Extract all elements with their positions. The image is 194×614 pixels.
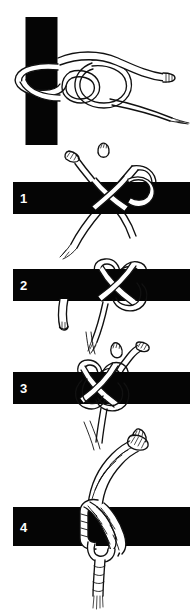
step-two-illustration xyxy=(13,259,190,358)
step-number-1: 1 xyxy=(20,191,27,206)
step-one-illustration xyxy=(13,151,190,259)
step-four-working-end xyxy=(88,435,148,508)
step-number-4: 4 xyxy=(20,520,28,535)
step-three-tail xyxy=(96,408,107,443)
knot-instruction-figure: Knot Tying Instructions Four-step illust… xyxy=(0,0,194,614)
step-four-illustration xyxy=(13,421,190,609)
post-bar xyxy=(26,17,58,145)
step-one-standing-end xyxy=(60,244,77,259)
step-two-rope-stub-right xyxy=(111,343,122,358)
step-four-tail xyxy=(93,560,105,609)
step-number-3: 3 xyxy=(20,381,27,396)
step-two-rope-stub-left xyxy=(59,299,69,330)
hero-rope-stub xyxy=(98,143,109,157)
hero-illustration xyxy=(15,17,189,157)
step-one-rope-end xyxy=(65,151,79,164)
step-number-2: 2 xyxy=(20,278,27,293)
step-two-tails xyxy=(88,302,108,353)
step-three-illustration xyxy=(13,332,190,446)
